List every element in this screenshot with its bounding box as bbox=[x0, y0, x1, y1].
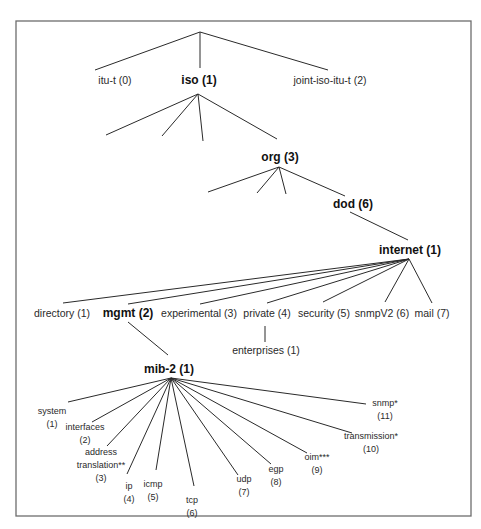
node-security: security (5) bbox=[298, 307, 350, 319]
node-label-line: (10) bbox=[363, 444, 379, 454]
node-label-line: translation** bbox=[77, 460, 126, 470]
node-enterprises: enterprises (1) bbox=[232, 344, 300, 356]
node-label-line: (11) bbox=[377, 411, 392, 421]
node-label-line: udp bbox=[236, 474, 251, 484]
tree-edge bbox=[279, 167, 345, 196]
node-label-line: transmission* bbox=[344, 431, 399, 441]
tree-edge bbox=[95, 32, 200, 70]
node-itu-t: itu-t (0) bbox=[98, 74, 131, 86]
tree-edge bbox=[279, 167, 286, 194]
node-mail: mail (7) bbox=[414, 307, 449, 319]
node-egp: egp(8) bbox=[268, 464, 283, 487]
tree-edge bbox=[162, 94, 198, 136]
node-mgmt: mgmt (2) bbox=[103, 306, 154, 320]
node-dod: dod (6) bbox=[333, 197, 373, 211]
oid-tree-diagram: itu-t (0) iso (1) joint-iso-itu-t (2) or… bbox=[0, 0, 481, 529]
node-label-line: snmp* bbox=[372, 398, 398, 408]
tree-edge bbox=[128, 322, 168, 355]
tree-edge bbox=[92, 378, 171, 422]
node-private: private (4) bbox=[243, 307, 290, 319]
node-label-line: (5) bbox=[148, 492, 159, 502]
node-system: system(1) bbox=[38, 406, 67, 429]
tree-edge bbox=[128, 259, 409, 304]
node-label-line: ip bbox=[125, 481, 132, 491]
node-label-line: interfaces bbox=[65, 422, 105, 432]
tree-edge bbox=[198, 94, 203, 141]
node-label-line: (9) bbox=[312, 465, 323, 475]
tree-edge bbox=[171, 378, 307, 453]
node-label-line: address bbox=[85, 447, 118, 457]
node-label-line: system bbox=[38, 406, 67, 416]
node-interfaces: interfaces(2) bbox=[65, 422, 105, 445]
node-directory: directory (1) bbox=[34, 307, 90, 319]
node-label-line: (4) bbox=[124, 494, 135, 504]
node-label-line: tcp bbox=[186, 495, 198, 505]
node-experimental: experimental (3) bbox=[161, 307, 237, 319]
node-internet: internet (1) bbox=[379, 243, 441, 257]
node-label-line: (7) bbox=[239, 487, 250, 497]
tree-edge bbox=[171, 378, 366, 404]
node-joint-iso-itu-t: joint-iso-itu-t (2) bbox=[293, 74, 367, 86]
node-oim: oim***(9) bbox=[304, 452, 330, 475]
node-iso: iso (1) bbox=[181, 73, 216, 87]
node-snmp: snmp*(11) bbox=[372, 398, 398, 421]
tree-edge bbox=[198, 94, 277, 139]
tree-edge bbox=[68, 378, 171, 402]
node-label-line: (2) bbox=[80, 435, 91, 445]
tree-edge bbox=[200, 32, 328, 70]
node-label-line: (1) bbox=[47, 419, 58, 429]
node-label-line: (6) bbox=[187, 508, 198, 518]
node-label-line: oim*** bbox=[304, 452, 330, 462]
tree-edge bbox=[171, 378, 352, 433]
node-tcp: tcp(6) bbox=[186, 495, 198, 518]
node-label-line: (3) bbox=[96, 473, 107, 483]
tree-edge bbox=[350, 212, 408, 240]
tree-edge bbox=[127, 378, 171, 474]
tree-edge bbox=[409, 259, 432, 303]
node-label-line: (8) bbox=[271, 477, 282, 487]
node-ip: ip(4) bbox=[124, 481, 135, 504]
node-org: org (3) bbox=[261, 150, 298, 164]
node-label-line: egp bbox=[268, 464, 283, 474]
node-snmpv2: snmpV2 (6) bbox=[355, 307, 409, 319]
node-icmp: icmp(5) bbox=[143, 479, 162, 502]
node-transmission: transmission*(10) bbox=[344, 431, 399, 454]
node-label-line: icmp bbox=[143, 479, 162, 489]
node-mib-2: mib-2 (1) bbox=[144, 362, 194, 376]
tree-edge bbox=[106, 94, 198, 135]
mib-2-children: system(1)interfaces(2)addresstranslation… bbox=[38, 398, 399, 518]
node-address-translation: addresstranslation**(3) bbox=[77, 447, 126, 483]
node-udp: udp(7) bbox=[236, 474, 251, 497]
